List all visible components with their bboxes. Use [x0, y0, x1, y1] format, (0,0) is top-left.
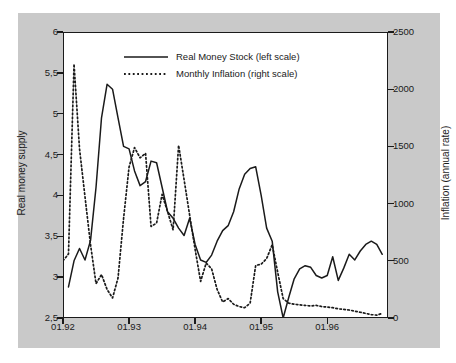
- figure-container: 65,554,543,532,52500200015001000500001.9…: [0, 0, 456, 363]
- x-axis-tick-label: 01.96: [297, 322, 357, 332]
- legend-label-real-money-stock: Real Money Stock (left scale): [176, 52, 300, 62]
- y-axis-right-tick-label: 0: [393, 313, 398, 323]
- y-axis-right-tick-label: 1500: [393, 141, 414, 151]
- legend-solid-line-icon: [124, 52, 168, 62]
- x-axis-tick-label: 01.93: [99, 322, 159, 332]
- x-axis-tick-label: 01.92: [33, 322, 93, 332]
- y-axis-left-tick-label: 5: [53, 109, 58, 119]
- y-axis-left-tick-label: 4: [53, 190, 58, 200]
- x-axis-tick-label: 01.94: [165, 322, 225, 332]
- y-axis-left-tick-label: 4,5: [45, 150, 58, 160]
- legend-item-real-money-stock: Real Money Stock (left scale): [124, 50, 300, 64]
- y-axis-right-tick-label: 2000: [393, 84, 414, 94]
- x-axis-tick-label: 01.95: [231, 322, 291, 332]
- y-axis-left-tick-label: 6: [53, 27, 58, 37]
- y-axis-right-tick-label: 500: [393, 256, 409, 266]
- series-real-money-stock-line: [68, 84, 382, 318]
- y-axis-right-tick-label: 2500: [393, 27, 414, 37]
- legend-item-monthly-inflation: Monthly Inflation (right scale): [124, 67, 300, 81]
- y-axis-left-tick-label: 5,5: [45, 68, 58, 78]
- y-axis-left-tick-label: 3: [53, 272, 58, 282]
- y-axis-right-title: Inflation (annual rate): [441, 98, 451, 248]
- legend-label-monthly-inflation: Monthly Inflation (right scale): [176, 69, 297, 79]
- chart-legend: Real Money Stock (left scale) Monthly In…: [124, 50, 300, 84]
- y-axis-left-title: Real money supply: [17, 108, 27, 238]
- series-monthly-inflation-line: [63, 64, 382, 315]
- y-axis-right-tick-label: 1000: [393, 199, 414, 209]
- legend-dotted-line-icon: [124, 69, 168, 79]
- y-axis-left-tick-label: 3,5: [45, 231, 58, 241]
